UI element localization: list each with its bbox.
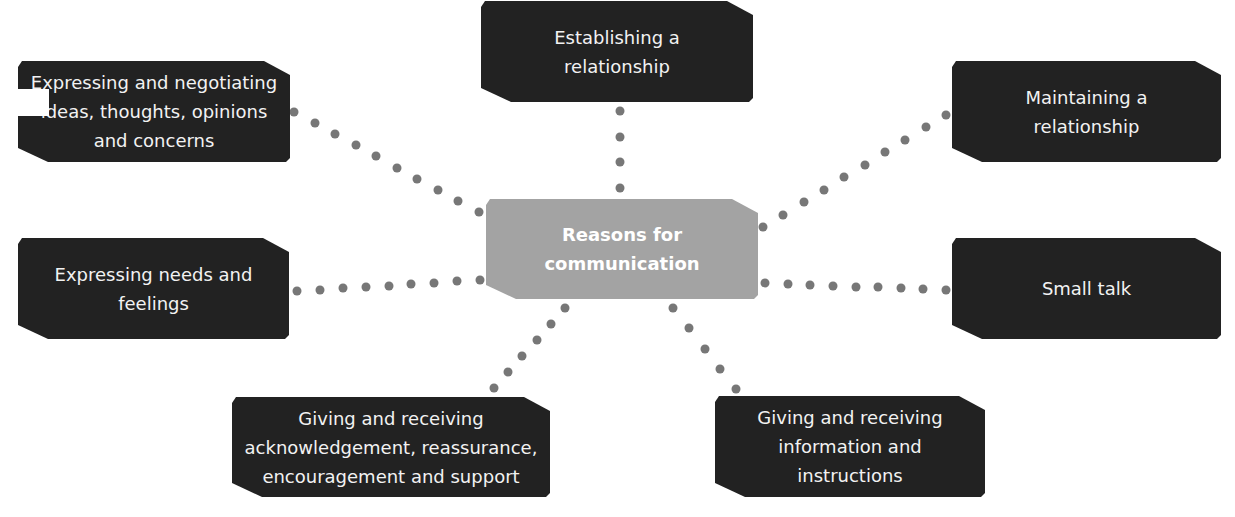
connector-dot: [561, 304, 570, 313]
node-negotiating-ideas: Expressing and negotiating ideas, though…: [18, 61, 290, 162]
center-label: Reasons for communication: [544, 220, 699, 278]
connector-dot: [921, 123, 930, 132]
node-small-talk: Small talk: [952, 238, 1221, 339]
connector-dot: [896, 284, 905, 293]
connector-dot: [840, 173, 849, 182]
connector-dot: [779, 210, 788, 219]
connector-dot: [532, 336, 541, 345]
node-maintaining-relationship: Maintaining a relationship: [952, 61, 1221, 162]
connector-dot: [759, 223, 768, 232]
connector-dot: [361, 282, 370, 291]
connector-dot: [783, 279, 792, 288]
connector-dot: [372, 152, 381, 161]
connector-dot: [761, 279, 770, 288]
connector-dot: [430, 278, 439, 287]
connector-dot: [504, 368, 513, 377]
connector-dot: [475, 208, 484, 217]
connector-dot: [942, 111, 951, 120]
connector-dot: [338, 284, 347, 293]
node-center-reasons-for-communication: Reasons for communication: [486, 199, 758, 299]
connector-dot: [820, 185, 829, 194]
connector-dot: [293, 287, 302, 296]
connector-dot: [806, 280, 815, 289]
node-establishing-relationship: Establishing a relationship: [481, 1, 753, 102]
node-label: Small talk: [1042, 274, 1131, 303]
white-occluder-block: [18, 89, 49, 116]
connector-dot: [881, 148, 890, 157]
connector-dot: [454, 196, 463, 205]
connector-dot: [453, 277, 462, 286]
node-acknowledgement-support: Giving and receiving acknowledgement, re…: [232, 397, 550, 497]
node-label: Expressing and negotiating ideas, though…: [31, 68, 277, 155]
connector-dot: [392, 163, 401, 172]
node-label: Expressing needs and feelings: [55, 260, 253, 318]
connector-dot: [433, 185, 442, 194]
node-information-instructions: Giving and receiving information and ins…: [715, 396, 985, 497]
connector-dot: [828, 281, 837, 290]
diagram-canvas: Establishing a relationship Maintaining …: [0, 0, 1235, 517]
connector-dot: [901, 135, 910, 144]
connector-dot: [490, 384, 499, 393]
connector-dot: [413, 174, 422, 183]
connector-dot: [310, 119, 319, 128]
node-label: Establishing a relationship: [554, 23, 680, 81]
connector-dot: [476, 276, 485, 285]
connector-dot: [351, 141, 360, 150]
connector-dot: [518, 352, 527, 361]
connector-dot: [942, 286, 951, 295]
connector-dot: [616, 107, 625, 116]
connector-dot: [616, 184, 625, 193]
connector-dot: [860, 160, 869, 169]
node-label: Giving and receiving information and ins…: [757, 403, 942, 490]
connector-dot: [799, 198, 808, 207]
connector-dot: [315, 285, 324, 294]
connector-dot: [384, 281, 393, 290]
connector-dot: [616, 158, 625, 167]
connector-dot: [919, 285, 928, 294]
connector-dot: [331, 130, 340, 139]
connector-dot: [732, 385, 741, 394]
connector-dot: [700, 344, 709, 353]
connector-dot: [669, 304, 678, 313]
connector-dot: [684, 324, 693, 333]
node-label: Giving and receiving acknowledgement, re…: [245, 404, 538, 491]
connector-dot: [407, 280, 416, 289]
connector-dot: [290, 108, 299, 117]
connector-dot: [851, 282, 860, 291]
node-needs-feelings: Expressing needs and feelings: [18, 238, 289, 339]
connector-dot: [716, 364, 725, 373]
connector-dot: [616, 132, 625, 141]
connector-dot: [546, 320, 555, 329]
node-label: Maintaining a relationship: [1025, 83, 1147, 141]
connector-dot: [874, 283, 883, 292]
